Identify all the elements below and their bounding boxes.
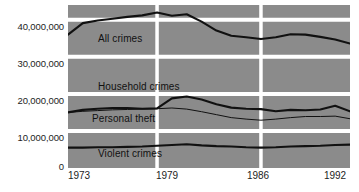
x-tick-label-1992: 1992 — [324, 170, 346, 182]
y-axis: 40,000,000 30,000,000 20,000,000 10,000,… — [0, 0, 64, 192]
series-label-violent-crimes: Violent crimes — [98, 148, 162, 159]
plot-area: All crimes Household crimes Personal the… — [68, 5, 350, 168]
y-tick-label-20m: 20,000,000 — [0, 96, 64, 106]
y-tick-label-40m: 40,000,000 — [0, 22, 64, 32]
series-label-all-crimes: All crimes — [98, 33, 142, 44]
y-tick-label-30m: 30,000,000 — [0, 59, 64, 69]
x-tick-label-1986: 1986 — [247, 170, 269, 182]
series-label-household-crimes: Household crimes — [98, 81, 180, 92]
x-tick-label-1979: 1979 — [156, 170, 178, 182]
x-tick-label-1973: 1973 — [68, 170, 90, 182]
y-tick-label-10m: 10,000,000 — [0, 133, 64, 143]
x-axis: 1973 1979 1986 1992 — [0, 170, 359, 192]
crime-trends-line-chart: 40,000,000 30,000,000 20,000,000 10,000,… — [0, 0, 359, 192]
series-label-personal-theft: Personal theft — [92, 113, 155, 124]
